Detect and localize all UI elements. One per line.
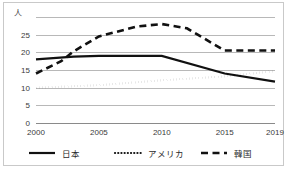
legend-label: アメリカ bbox=[148, 149, 184, 159]
y-tick-label: 10 bbox=[21, 84, 30, 93]
line-chart: 0510152025 20002005201020152019 人 日本アメリカ… bbox=[0, 0, 287, 172]
series-line bbox=[36, 71, 275, 88]
y-tick-label: 20 bbox=[21, 48, 30, 57]
x-axis-tick-labels: 20002005201020152019 bbox=[27, 128, 284, 137]
y-axis-unit-label: 人 bbox=[14, 9, 22, 18]
x-tick-label: 2005 bbox=[90, 128, 108, 137]
x-tick-label: 2000 bbox=[27, 128, 45, 137]
legend-label: 韓国 bbox=[234, 149, 252, 159]
legend-label: 日本 bbox=[62, 149, 80, 159]
y-tick-label: 25 bbox=[21, 31, 30, 40]
gridlines-group bbox=[36, 18, 275, 124]
y-axis-tick-labels: 0510152025 bbox=[21, 31, 30, 128]
x-tick-label: 2015 bbox=[216, 128, 234, 137]
y-tick-label: 0 bbox=[26, 119, 31, 128]
series-line bbox=[36, 24, 275, 73]
chart-figure: 0510152025 20002005201020152019 人 日本アメリカ… bbox=[0, 0, 287, 172]
y-tick-label: 15 bbox=[21, 66, 30, 75]
series-group bbox=[36, 24, 275, 88]
x-tick-label: 2019 bbox=[266, 128, 284, 137]
x-tick-label: 2010 bbox=[153, 128, 171, 137]
series-line bbox=[36, 56, 275, 82]
y-tick-label: 5 bbox=[26, 101, 31, 110]
chart-legend: 日本アメリカ韓国 bbox=[29, 149, 252, 159]
